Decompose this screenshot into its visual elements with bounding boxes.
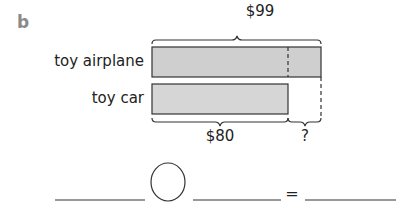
top-brace — [152, 36, 321, 44]
bar-toy-car — [152, 84, 288, 114]
equals-sign: = — [284, 184, 300, 203]
operator-circle — [151, 163, 185, 201]
bar-toy-airplane — [152, 47, 321, 77]
bottom-brace-left — [152, 118, 288, 126]
bar-model-diagram — [0, 0, 409, 210]
bottom-brace-right-label: ? — [290, 127, 320, 145]
bottom-brace-left-label: $80 — [190, 127, 250, 145]
bottom-brace-right — [288, 118, 321, 126]
